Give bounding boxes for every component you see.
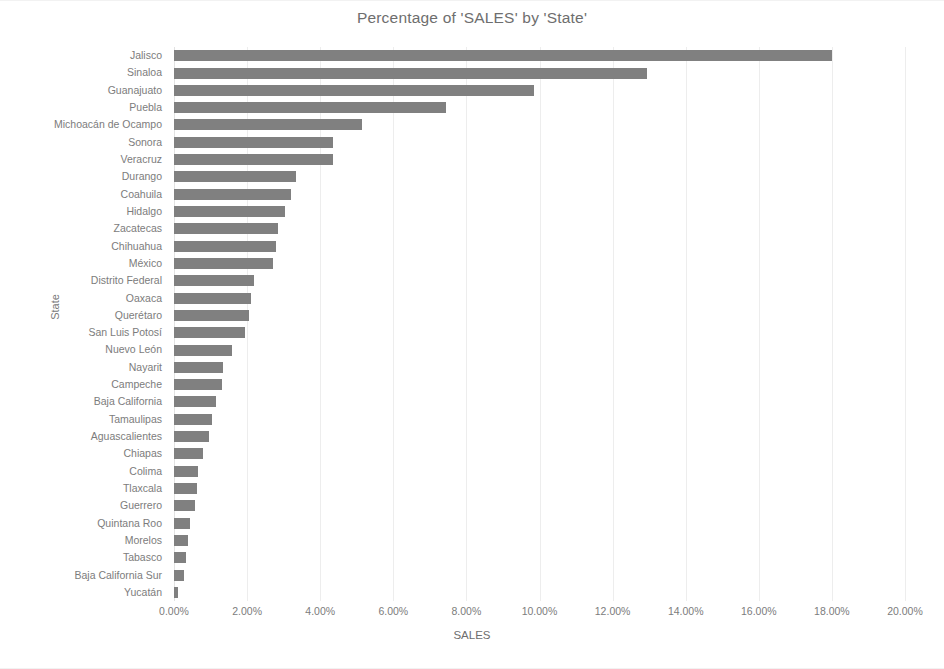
bar-row[interactable] [174, 151, 905, 168]
y-axis-category-label: Aguascalientes [91, 431, 162, 442]
y-axis-category-label: Campeche [111, 379, 162, 390]
y-axis-category-label: Puebla [129, 102, 162, 113]
y-axis-category-label: Distrito Federal [91, 275, 162, 286]
bar-row[interactable] [174, 376, 905, 393]
bar-row[interactable] [174, 289, 905, 306]
bar[interactable] [174, 327, 245, 338]
chart-container: Percentage of 'SALES' by 'State' State J… [0, 0, 944, 669]
bar-row[interactable] [174, 359, 905, 376]
y-axis-category-label: Baja California Sur [74, 570, 162, 581]
bar[interactable] [174, 275, 254, 286]
bar[interactable] [174, 535, 188, 546]
bar[interactable] [174, 379, 222, 390]
y-axis-category-label: Hidalgo [126, 206, 162, 217]
bar[interactable] [174, 171, 296, 182]
x-axis-tick-label: 10.00% [522, 605, 558, 617]
bar[interactable] [174, 258, 273, 269]
bar-row[interactable] [174, 497, 905, 514]
y-axis-category-label: Morelos [125, 535, 162, 546]
bar[interactable] [174, 500, 195, 511]
y-axis-category-label: Yucatán [124, 587, 162, 598]
chart-title: Percentage of 'SALES' by 'State' [0, 9, 944, 27]
bar-row[interactable] [174, 134, 905, 151]
bar-row[interactable] [174, 168, 905, 185]
bar[interactable] [174, 137, 333, 148]
bar-row[interactable] [174, 480, 905, 497]
bar[interactable] [174, 223, 278, 234]
y-axis-category-label: Oaxaca [126, 293, 162, 304]
y-axis-category-label: Durango [122, 171, 162, 182]
bar-row[interactable] [174, 307, 905, 324]
y-axis-category-label: Sinaloa [127, 67, 162, 78]
bar[interactable] [174, 189, 291, 200]
bar-row[interactable] [174, 463, 905, 480]
bar-row[interactable] [174, 64, 905, 81]
x-axis-tick-label: 2.00% [232, 605, 262, 617]
bar[interactable] [174, 414, 212, 425]
y-axis-category-label: Coahuila [121, 189, 162, 200]
bar-row[interactable] [174, 549, 905, 566]
bar[interactable] [174, 293, 251, 304]
bar-row[interactable] [174, 272, 905, 289]
bar-row[interactable] [174, 220, 905, 237]
x-axis-tick-label: 18.00% [814, 605, 850, 617]
bar[interactable] [174, 345, 232, 356]
bar[interactable] [174, 518, 190, 529]
bar-row[interactable] [174, 99, 905, 116]
bar[interactable] [174, 448, 203, 459]
bar[interactable] [174, 310, 249, 321]
y-axis-category-label: Michoacán de Ocampo [54, 119, 162, 130]
bar-row[interactable] [174, 203, 905, 220]
bar[interactable] [174, 119, 362, 130]
bar[interactable] [174, 362, 223, 373]
bar-row[interactable] [174, 255, 905, 272]
bar-row[interactable] [174, 186, 905, 203]
y-axis-category-label: Guerrero [120, 500, 162, 511]
bar[interactable] [174, 50, 832, 61]
x-axis-title: SALES [0, 629, 944, 641]
bar[interactable] [174, 431, 209, 442]
y-axis-category-labels: JaliscoSinaloaGuanajuatoPueblaMichoacán … [0, 47, 168, 601]
y-axis-category-label: Guanajuato [108, 85, 162, 96]
y-axis-category-label: Quintana Roo [97, 518, 162, 529]
bar[interactable] [174, 466, 198, 477]
bar[interactable] [174, 68, 647, 79]
bar[interactable] [174, 587, 178, 598]
bar-row[interactable] [174, 393, 905, 410]
bar-row[interactable] [174, 324, 905, 341]
x-axis-tick-label: 16.00% [741, 605, 777, 617]
y-axis-category-label: Nayarit [129, 362, 162, 373]
bar-row[interactable] [174, 82, 905, 99]
bar[interactable] [174, 570, 184, 581]
y-axis-category-label: Baja California [94, 396, 162, 407]
y-axis-category-label: Sonora [128, 137, 162, 148]
x-axis-tick-label: 12.00% [595, 605, 631, 617]
bar-row[interactable] [174, 566, 905, 583]
gridline [905, 47, 906, 601]
bar-row[interactable] [174, 237, 905, 254]
y-axis-category-label: Tlaxcala [123, 483, 162, 494]
y-axis-category-label: Veracruz [121, 154, 162, 165]
x-axis-tick-label: 8.00% [452, 605, 482, 617]
y-axis-category-label: Zacatecas [114, 223, 162, 234]
bar-row[interactable] [174, 47, 905, 64]
bar-row[interactable] [174, 411, 905, 428]
bar-row[interactable] [174, 116, 905, 133]
x-axis-tick-label: 6.00% [378, 605, 408, 617]
bar[interactable] [174, 241, 276, 252]
bar-row[interactable] [174, 514, 905, 531]
bar-row[interactable] [174, 445, 905, 462]
bar[interactable] [174, 206, 285, 217]
bar[interactable] [174, 102, 446, 113]
bar-row[interactable] [174, 532, 905, 549]
bar-row[interactable] [174, 428, 905, 445]
bar[interactable] [174, 85, 534, 96]
bar[interactable] [174, 154, 333, 165]
bar[interactable] [174, 396, 216, 407]
bar[interactable] [174, 552, 186, 563]
x-axis-tick-label: 0.00% [159, 605, 189, 617]
y-axis-category-label: Chiapas [123, 448, 162, 459]
bar-row[interactable] [174, 584, 905, 601]
bar[interactable] [174, 483, 197, 494]
bar-row[interactable] [174, 341, 905, 358]
